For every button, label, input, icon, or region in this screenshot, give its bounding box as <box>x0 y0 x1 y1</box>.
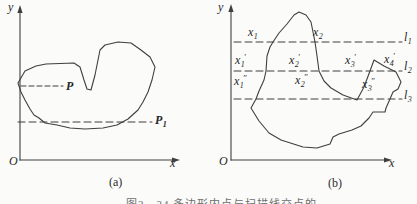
panel-a-y-axis-label: y <box>8 1 13 13</box>
point-label-p: P <box>66 80 73 92</box>
point-label-p1: P1 <box>155 114 167 128</box>
panel-a-y-axis-arrow-icon <box>17 5 22 13</box>
panel-b-tag: (b) <box>328 177 342 189</box>
point-label-x1-prime: x1′ <box>235 54 246 68</box>
panel-b-origin-label: O <box>219 155 228 167</box>
point-label-x1: x1 <box>248 26 258 40</box>
scanline-label-l1: l1 <box>404 31 412 45</box>
panel-a-origin-label: O <box>9 155 18 167</box>
figure-caption: 图2—34 多边形内点与扫描线交点的判别 <box>126 198 316 204</box>
point-label-x1-dblprime: x1″ <box>234 75 247 89</box>
panel-a-x-axis-label: x <box>170 157 175 169</box>
point-label-x2-dblprime: x2″ <box>295 74 308 88</box>
point-label-x2-prime: x2′ <box>289 54 300 68</box>
panel-a-tag: (a) <box>109 176 122 188</box>
panel-b-y-axis-label: y <box>218 1 223 13</box>
panel-b-polygon <box>251 12 401 148</box>
point-label-x3-prime: x3′ <box>345 54 356 68</box>
point-label-x4-prime: x4′ <box>384 53 395 67</box>
figure-canvas: y O x P P1 (a) y O x l1 l2 l3 x1 x2 x1′ … <box>0 0 417 204</box>
point-label-x2: x2 <box>313 26 323 40</box>
scanline-label-l2: l2 <box>404 60 412 74</box>
panel-b-y-axis-arrow-icon <box>228 4 233 12</box>
point-label-x3-dblprime: x3″ <box>362 78 375 92</box>
diagram-svg <box>0 0 417 204</box>
panel-b-x-axis-label: x <box>389 157 394 169</box>
scanline-label-l3: l3 <box>404 89 412 103</box>
